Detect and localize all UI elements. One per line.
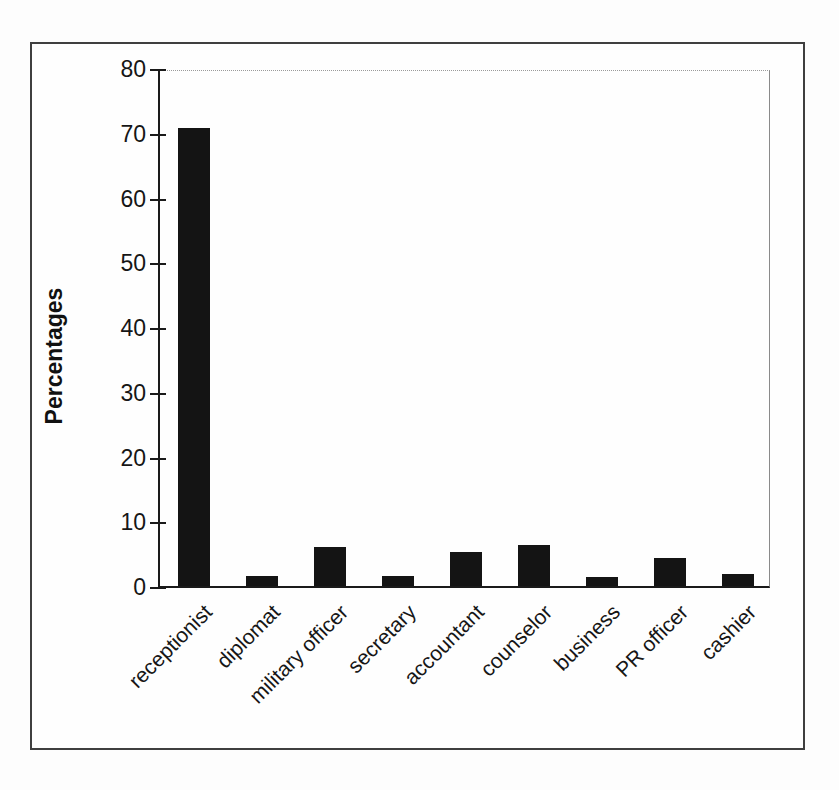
bar-PR-officer [654, 558, 686, 586]
bar-diplomat [246, 576, 278, 586]
bar-military-officer [314, 547, 346, 586]
bar-secretary [382, 576, 414, 586]
x-tick-label-PR-officer: PR officer [611, 600, 693, 682]
y-tick-label-20: 20 [86, 447, 146, 470]
y-tick-label-70: 70 [86, 123, 146, 146]
x-tick-label-cashier: cashier [696, 600, 761, 665]
bar-business [586, 577, 618, 586]
y-tick-label-40: 40 [86, 317, 146, 340]
bar-receptionist [178, 128, 210, 586]
y-tick-80 [150, 69, 166, 71]
bar-cashier [722, 574, 754, 586]
y-tick-label-60: 60 [86, 188, 146, 211]
y-tick-label-10: 10 [86, 511, 146, 534]
x-tick-label-receptionist: receptionist [124, 600, 217, 693]
x-tick-label-counselor: counselor [476, 600, 557, 681]
plot-area [158, 70, 770, 588]
y-tick-label-30: 30 [86, 382, 146, 405]
chart-figure: Percentages 01020304050607080 receptioni… [30, 42, 805, 750]
y-tick-0 [150, 587, 166, 589]
y-tick-50 [150, 263, 166, 265]
y-axis-title: Percentages [41, 288, 68, 425]
y-tick-60 [150, 199, 166, 201]
y-tick-label-50: 50 [86, 252, 146, 275]
y-tick-20 [150, 458, 166, 460]
y-tick-label-0: 0 [86, 576, 146, 599]
bar-counselor [518, 545, 550, 586]
y-tick-label-80: 80 [86, 58, 146, 81]
y-tick-30 [150, 393, 166, 395]
y-tick-70 [150, 134, 166, 136]
y-tick-40 [150, 328, 166, 330]
y-tick-10 [150, 522, 166, 524]
bar-accountant [450, 552, 482, 586]
